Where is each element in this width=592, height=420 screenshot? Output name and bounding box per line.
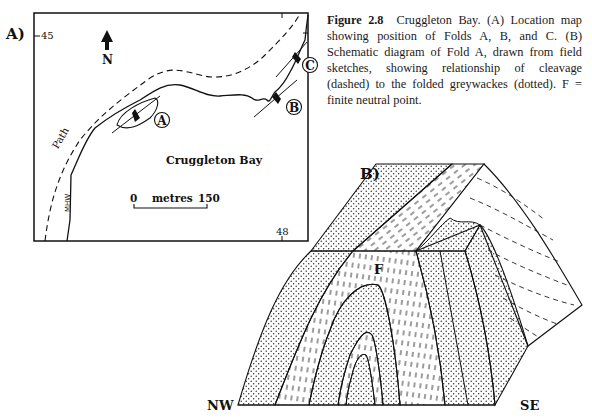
fold-c-label: C [305,59,315,73]
orientation-nw: NW [207,398,233,413]
scale-unit: metres [152,192,193,204]
fold-b-label: B [289,101,299,115]
scale-start: 0 [130,192,137,204]
fold-c-symbol-icon [292,52,301,64]
location-map: A B C [0,0,592,420]
fold-a-label: A [156,114,167,128]
orientation-se: SE [520,398,539,413]
path-line [45,14,300,241]
north-label: N [102,53,113,67]
grid-tick-48: 48 [276,226,289,237]
panel-b-label: B) [360,165,380,183]
place-name-cruggleton-bay: Cruggleton Bay [166,154,262,167]
scale-end: 150 [198,192,220,204]
fold-a-symbol-icon [132,109,140,122]
fold-block-diagram [238,164,582,405]
north-arrow-icon [101,30,113,50]
grid-tick-45: 45 [41,30,54,41]
scale-bar [134,204,207,208]
neutral-point-label: F [374,262,383,277]
map-frame [34,13,308,241]
mhw-label: MHW [64,194,72,212]
